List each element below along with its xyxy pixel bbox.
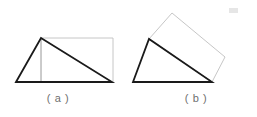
panel-a-group [16,38,113,82]
panel-b-caption: ( b ) [172,92,220,104]
panel-a-triangle [16,38,112,82]
panel-a-caption: ( a ) [34,92,82,104]
geometry-figure: ( a ) ( b ) [0,0,257,117]
panel-b-group [133,13,225,82]
corner-smudge-artifact [229,8,238,13]
panel-b-triangle [133,39,212,82]
